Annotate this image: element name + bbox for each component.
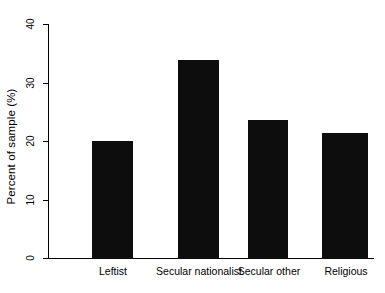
y-axis-line [48, 24, 49, 259]
x-tick-label-secular-other: Secular other [226, 264, 312, 278]
y-tick-label-2: 20 [25, 132, 37, 150]
y-tick-label-1: 10 [25, 191, 37, 209]
bar-chart-figure: Percent of sample (%) 0 10 20 30 40 Left… [0, 0, 385, 293]
y-tick-1 [43, 200, 48, 201]
bar-religious[interactable] [322, 133, 368, 259]
y-axis-title: Percent of sample (%) [0, 0, 22, 293]
x-tick-label-leftist: Leftist [72, 264, 154, 278]
bar-leftist[interactable] [92, 141, 133, 259]
x-tick-label-religious: Religious [305, 264, 385, 278]
bar-secular-other[interactable] [248, 120, 288, 259]
bar-secular-nationalist[interactable] [178, 60, 219, 259]
y-tick-4 [43, 24, 48, 25]
y-tick-label-3: 30 [25, 74, 37, 92]
y-tick-3 [43, 83, 48, 84]
y-tick-0 [43, 258, 48, 259]
y-tick-label-0: 0 [25, 249, 37, 267]
plot-area: 0 10 20 30 40 Leftist Secular nationalis… [48, 20, 374, 260]
y-tick-label-4: 40 [25, 15, 37, 33]
y-tick-2 [43, 141, 48, 142]
